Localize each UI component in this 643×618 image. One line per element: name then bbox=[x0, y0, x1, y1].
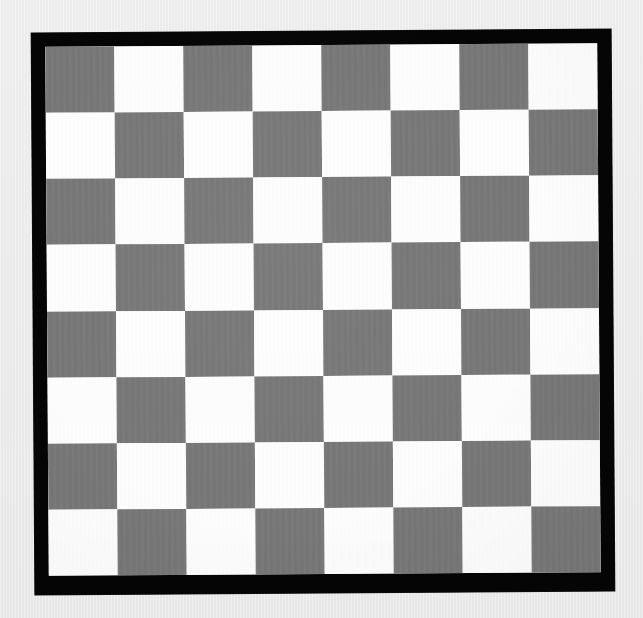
checker-square-r1c7 bbox=[459, 44, 528, 111]
checker-square-r5c8 bbox=[530, 308, 599, 375]
checker-square-r2c4 bbox=[253, 111, 322, 178]
checker-square-r7c3 bbox=[186, 442, 255, 509]
checker-square-r2c7 bbox=[460, 110, 529, 177]
checker-square-r2c5 bbox=[322, 111, 391, 178]
checker-square-r4c6 bbox=[392, 242, 461, 309]
checker-square-r3c8 bbox=[529, 175, 598, 242]
checker-square-r8c5 bbox=[324, 507, 393, 574]
checker-square-r6c7 bbox=[461, 374, 530, 441]
checker-square-r8c8 bbox=[531, 506, 600, 573]
checker-square-r4c8 bbox=[530, 242, 599, 309]
checker-square-r2c2 bbox=[115, 112, 184, 179]
checker-square-r1c6 bbox=[390, 44, 459, 111]
checker-square-r1c3 bbox=[183, 45, 252, 112]
checker-square-r5c5 bbox=[323, 309, 392, 376]
checker-square-r1c8 bbox=[528, 43, 597, 110]
checker-square-r4c7 bbox=[461, 242, 530, 309]
scene-canvas bbox=[0, 0, 643, 618]
checker-square-r3c1 bbox=[46, 179, 115, 246]
checker-square-r2c8 bbox=[529, 109, 598, 176]
checker-square-r4c3 bbox=[185, 244, 254, 311]
checkerboard-frame bbox=[31, 29, 615, 595]
checker-square-r6c3 bbox=[185, 376, 254, 443]
checker-square-r3c2 bbox=[115, 178, 184, 245]
checker-square-r4c4 bbox=[254, 243, 323, 310]
checker-square-r5c1 bbox=[47, 311, 116, 378]
checker-square-r2c3 bbox=[184, 112, 253, 179]
checker-square-r5c6 bbox=[392, 309, 461, 376]
checker-square-r5c7 bbox=[461, 308, 530, 375]
checker-square-r6c8 bbox=[530, 374, 599, 441]
checker-square-r3c5 bbox=[322, 177, 391, 244]
checker-square-r7c7 bbox=[462, 440, 531, 507]
checker-square-r8c7 bbox=[462, 506, 531, 573]
checker-square-r8c1 bbox=[48, 509, 117, 576]
checker-square-r3c3 bbox=[184, 178, 253, 245]
checker-square-r7c4 bbox=[255, 442, 324, 509]
checker-square-r7c8 bbox=[531, 440, 600, 507]
checker-square-r7c5 bbox=[324, 441, 393, 508]
checker-square-r4c1 bbox=[47, 245, 116, 312]
checker-square-r8c2 bbox=[117, 509, 186, 576]
checker-square-r8c6 bbox=[393, 507, 462, 574]
checker-square-r6c4 bbox=[254, 376, 323, 443]
checker-square-r7c1 bbox=[48, 443, 117, 510]
checker-square-r8c4 bbox=[255, 508, 324, 575]
checker-square-r7c2 bbox=[117, 443, 186, 510]
checker-square-r6c5 bbox=[323, 375, 392, 442]
checker-square-r7c6 bbox=[393, 441, 462, 508]
checker-square-r1c4 bbox=[252, 45, 321, 112]
checker-square-r5c2 bbox=[116, 310, 185, 377]
checker-square-r2c6 bbox=[391, 110, 460, 177]
checker-square-r5c4 bbox=[254, 310, 323, 377]
checker-square-r3c4 bbox=[253, 177, 322, 244]
checker-square-r4c5 bbox=[323, 243, 392, 310]
checker-square-r6c1 bbox=[47, 377, 116, 444]
checker-square-r3c6 bbox=[391, 176, 460, 243]
checker-square-r1c5 bbox=[321, 45, 390, 112]
checker-square-r1c1 bbox=[45, 46, 114, 113]
checker-square-r5c3 bbox=[185, 310, 254, 377]
checker-square-r2c1 bbox=[46, 113, 115, 180]
checker-square-r6c6 bbox=[392, 375, 461, 442]
checkerboard-grid bbox=[45, 43, 600, 576]
checker-square-r1c2 bbox=[114, 46, 183, 113]
checker-square-r8c3 bbox=[186, 508, 255, 575]
checker-square-r3c7 bbox=[460, 176, 529, 243]
checker-square-r4c2 bbox=[116, 244, 185, 311]
checker-square-r6c2 bbox=[116, 377, 185, 444]
